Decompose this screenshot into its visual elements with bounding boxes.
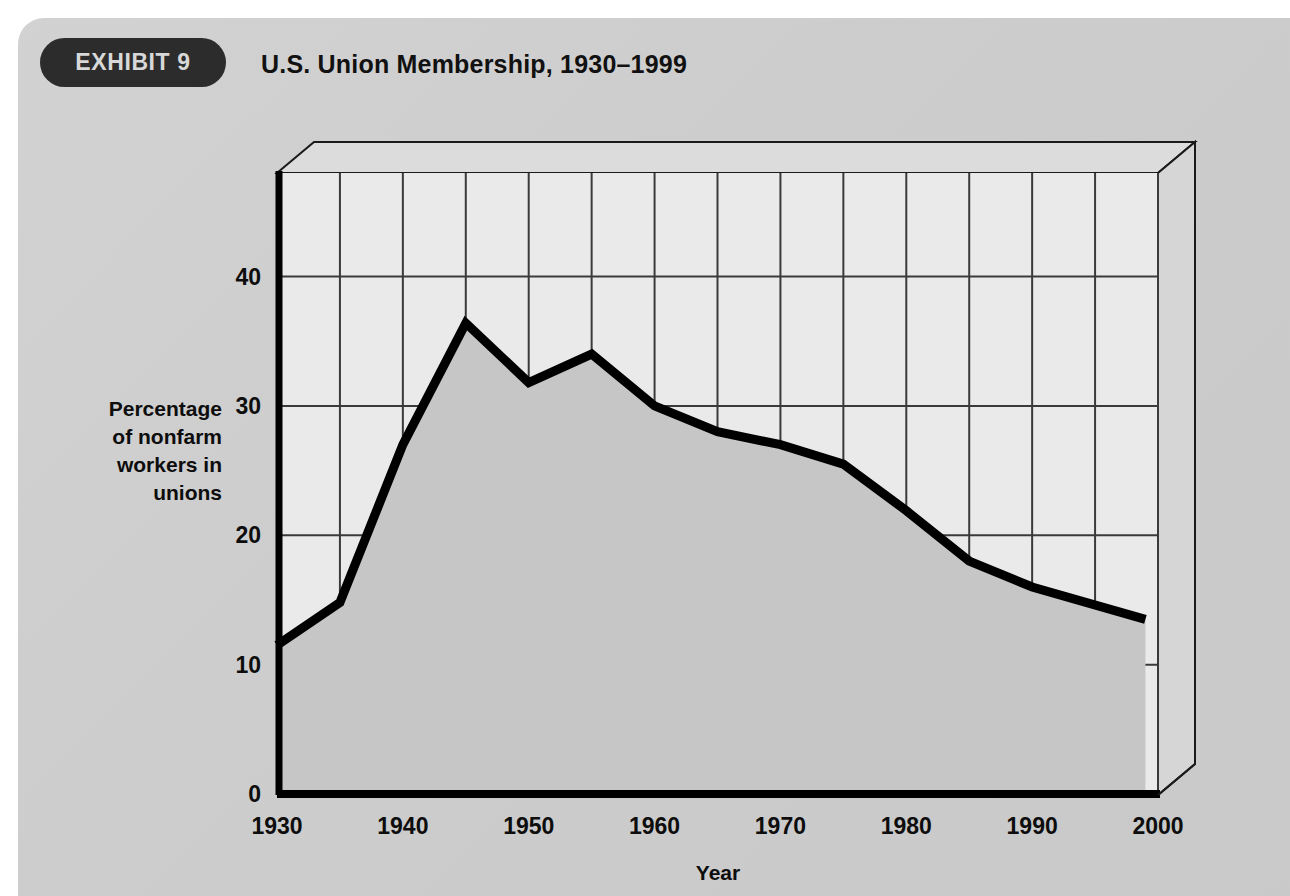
x-tick-label: 1990 [1007,813,1058,839]
y-axis-caption-line: unions [153,481,222,504]
exhibit-panel: EXHIBIT 9 U.S. Union Membership, 1930–19… [18,18,1290,896]
x-tick-label: 2000 [1132,813,1183,839]
union-membership-area-chart: 010203040 193019401950196019701980199020… [18,110,1290,896]
y-tick-label: 40 [235,264,261,290]
y-tick-label: 30 [235,393,261,419]
y-axis-tick-labels: 010203040 [235,264,261,808]
y-axis-caption-line: workers in [116,453,222,476]
y-tick-label: 20 [235,522,261,548]
x-tick-label: 1930 [251,813,302,839]
page-title: U.S. Union Membership, 1930–1999 [261,50,687,79]
x-axis-title: Year [696,861,740,884]
chart-figure: 010203040 193019401950196019701980199020… [18,110,1290,896]
x-tick-label: 1940 [377,813,428,839]
x-tick-label: 1980 [881,813,932,839]
chart-right-wall [1158,142,1195,795]
x-tick-label: 1950 [503,813,554,839]
y-tick-label: 10 [235,652,261,678]
exhibit-badge: EXHIBIT 9 [40,38,226,87]
y-axis-caption-line: of nonfarm [112,425,222,448]
y-axis-caption-line: Percentage [109,397,222,420]
exhibit-header: EXHIBIT 9 U.S. Union Membership, 1930–19… [18,18,1290,110]
chart-top-wall [277,142,1195,173]
exhibit-badge-label: EXHIBIT 9 [75,49,190,76]
y-tick-label: 0 [248,781,261,807]
x-axis-tick-labels: 19301940195019601970198019902000 [251,813,1183,839]
y-axis-caption: Percentageof nonfarmworkers inunions [109,397,222,504]
x-tick-label: 1970 [755,813,806,839]
x-tick-label: 1960 [629,813,680,839]
